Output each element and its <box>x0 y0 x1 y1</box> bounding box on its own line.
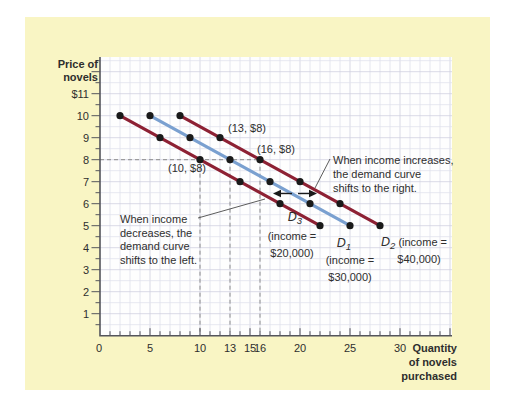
x-axis-tick-label: 16 <box>254 342 266 354</box>
y-axis-title: Price of <box>58 58 99 70</box>
y-axis-tick-label: 10 <box>77 110 89 122</box>
y-axis-tick-label: 2 <box>83 286 89 298</box>
curve-caption-D1: (income = <box>326 254 375 266</box>
y-axis-title: novels <box>63 71 98 83</box>
data-point-D3 <box>236 178 243 185</box>
curve-caption-D1: $30,000) <box>328 271 371 283</box>
x-axis-tick-label: 30 <box>394 342 406 354</box>
data-point-D2 <box>176 112 183 119</box>
x-axis-tick-label: 25 <box>344 342 356 354</box>
point-label-p16: (16, $8) <box>257 143 295 155</box>
data-point-D1 <box>346 222 353 229</box>
increase-callout-text: shifts to the right. <box>333 182 417 194</box>
y-axis-tick-label: $11 <box>71 88 89 100</box>
x-axis-tick-label: 20 <box>294 342 306 354</box>
y-axis-tick-label: 1 <box>83 308 89 320</box>
y-axis-tick-label: 6 <box>83 198 89 210</box>
data-point-D2 <box>376 222 383 229</box>
data-point-D1 <box>226 156 233 163</box>
data-point-D2 <box>256 156 263 163</box>
x-axis-tick-label: 0 <box>96 342 102 354</box>
point-label-p13: (13, $8) <box>228 122 266 134</box>
y-axis-tick-label: 4 <box>83 242 89 254</box>
data-point-D1 <box>186 134 193 141</box>
curve-caption-D3: (income = <box>268 230 317 242</box>
data-point-D3 <box>156 134 163 141</box>
x-axis-tick-label: 5 <box>147 342 153 354</box>
y-axis-tick-label: 9 <box>83 132 89 144</box>
plot-area <box>100 57 452 336</box>
decrease-callout-text: decreases, the <box>120 227 192 239</box>
increase-callout-text: the demand curve <box>333 168 421 180</box>
y-axis-tick-label: 5 <box>83 220 89 232</box>
x-axis-tick-label: 13 <box>224 342 236 354</box>
decrease-callout-text: When income <box>120 213 187 225</box>
data-point-D1 <box>306 200 313 207</box>
data-point-D2 <box>216 134 223 141</box>
x-axis-title: purchased <box>401 370 457 382</box>
demand-shift-chart: $11109876543210510131516202530Price ofno… <box>25 17 490 390</box>
textbook-figure: $11109876543210510131516202530Price ofno… <box>0 0 505 408</box>
data-point-D3 <box>116 112 123 119</box>
data-point-D3 <box>316 222 323 229</box>
x-axis-title: of novels <box>409 356 457 368</box>
point-label-p10: (10, $8) <box>168 162 206 174</box>
figure-panel: $11109876543210510131516202530Price ofno… <box>25 17 490 390</box>
y-axis-tick-label: 3 <box>83 264 89 276</box>
y-axis-tick-label: 8 <box>83 154 89 166</box>
data-point-D3 <box>276 200 283 207</box>
curve-caption-D2: $40,000) <box>397 253 440 265</box>
increase-callout-text: When income increases, <box>333 154 453 166</box>
x-axis-tick-label: 10 <box>194 342 206 354</box>
decrease-callout-text: shifts to the left. <box>120 254 197 266</box>
data-point-D2 <box>296 178 303 185</box>
curve-caption-D3: $20,000) <box>270 247 313 259</box>
data-point-D1 <box>266 178 273 185</box>
data-point-D1 <box>146 112 153 119</box>
y-axis-tick-label: 7 <box>83 176 89 188</box>
x-axis-title: Quantity <box>412 342 457 354</box>
decrease-callout-text: demand curve <box>120 240 190 252</box>
data-point-D2 <box>336 200 343 207</box>
